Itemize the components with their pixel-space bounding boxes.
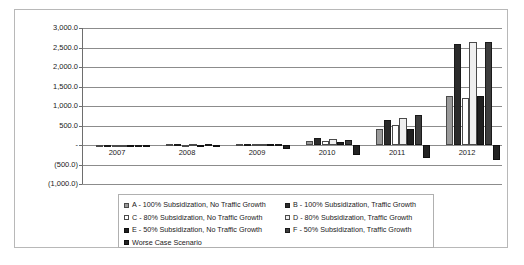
legend-label: C - 80% Subsidization, No Traffic Growth bbox=[132, 214, 263, 221]
gridline bbox=[82, 67, 502, 68]
bar-d-2007 bbox=[119, 145, 126, 147]
bar-g-2012 bbox=[493, 145, 500, 160]
bar-a-2010 bbox=[306, 141, 313, 145]
bar-e-2009 bbox=[267, 144, 274, 146]
gridline bbox=[82, 126, 502, 127]
bar-e-2011 bbox=[407, 129, 414, 145]
bar-d-2008 bbox=[189, 144, 196, 146]
bar-c-2012 bbox=[462, 98, 469, 145]
bar-b-2009 bbox=[244, 144, 251, 146]
bar-g-2009 bbox=[283, 145, 290, 149]
gridline bbox=[82, 28, 502, 29]
bar-f-2009 bbox=[275, 144, 282, 146]
gridline bbox=[82, 184, 502, 185]
legend-swatch-icon bbox=[285, 228, 290, 233]
bar-a-2012 bbox=[446, 96, 453, 145]
bar-g-2010 bbox=[353, 145, 360, 155]
bar-a-2008 bbox=[166, 144, 173, 146]
legend-swatch-icon bbox=[124, 203, 129, 208]
legend-swatch-icon bbox=[124, 228, 129, 233]
bar-f-2012 bbox=[485, 42, 492, 145]
chart-frame: 3,000.02,500.02,000.01,500.01,000.0500.0… bbox=[14, 9, 508, 248]
gridline bbox=[82, 165, 502, 166]
bar-e-2007 bbox=[127, 145, 134, 147]
bar-b-2011 bbox=[384, 120, 391, 145]
bar-f-2011 bbox=[415, 115, 422, 145]
legend-label: F - 50% Subsidization, Traffic Growth bbox=[293, 226, 412, 233]
legend-item-a[interactable]: A - 100% Subsidization, No Traffic Growt… bbox=[124, 199, 285, 211]
y-axis-line bbox=[82, 28, 83, 184]
x-tick-label-2007: 2007 bbox=[97, 149, 137, 157]
legend-swatch-icon bbox=[124, 240, 129, 245]
legend-item-d[interactable]: D - 80% Subsidization, Traffic Growth bbox=[285, 212, 412, 224]
legend-item-f[interactable]: F - 50% Subsidization, Traffic Growth bbox=[285, 224, 412, 236]
y-tick-label: - bbox=[76, 141, 79, 149]
bar-f-2007 bbox=[135, 145, 142, 147]
gridline bbox=[82, 106, 502, 107]
legend-row: E - 50% Subsidization, No Traffic Growth… bbox=[124, 224, 430, 236]
bar-c-2008 bbox=[182, 145, 189, 147]
bar-d-2009 bbox=[259, 144, 266, 146]
bar-g-2008 bbox=[213, 145, 220, 147]
bar-f-2010 bbox=[345, 140, 352, 145]
bar-d-2011 bbox=[399, 118, 406, 145]
legend-row: C - 80% Subsidization, No Traffic Growth… bbox=[124, 212, 430, 224]
y-tick-label: 1,000.0 bbox=[53, 102, 78, 110]
y-tick-label: (500.0) bbox=[54, 161, 78, 169]
y-tick-label: 500.0 bbox=[59, 122, 78, 130]
legend-label: D - 80% Subsidization, Traffic Growth bbox=[293, 214, 412, 221]
bar-b-2012 bbox=[454, 44, 461, 145]
gridline bbox=[82, 48, 502, 49]
y-axis-labels: 3,000.02,500.02,000.01,500.01,000.0500.0… bbox=[29, 28, 78, 184]
legend-label: E - 50% Subsidization, No Traffic Growth bbox=[132, 226, 262, 233]
bar-e-2010 bbox=[337, 142, 344, 145]
bar-a-2009 bbox=[236, 144, 243, 146]
y-tick-label: (1,000.0) bbox=[48, 180, 78, 188]
x-tick-label-2010: 2010 bbox=[307, 149, 347, 157]
legend-swatch-icon bbox=[285, 203, 290, 208]
legend-label: Worse Case Scenario bbox=[132, 239, 202, 246]
legend-item-c[interactable]: C - 80% Subsidization, No Traffic Growth bbox=[124, 212, 285, 224]
x-tick-label-2011: 2011 bbox=[377, 149, 417, 157]
legend-item-g[interactable]: Worse Case Scenario bbox=[124, 237, 285, 249]
bar-f-2008 bbox=[205, 144, 212, 146]
legend-row: Worse Case Scenario bbox=[124, 237, 430, 249]
legend-item-e[interactable]: E - 50% Subsidization, No Traffic Growth bbox=[124, 224, 285, 236]
chart-legend: A - 100% Subsidization, No Traffic Growt… bbox=[118, 194, 434, 248]
bar-a-2011 bbox=[376, 129, 383, 145]
bar-b-2010 bbox=[314, 138, 321, 145]
y-tick-label: 2,000.0 bbox=[53, 63, 78, 71]
bar-d-2012 bbox=[469, 42, 476, 145]
bar-g-2007 bbox=[143, 145, 150, 147]
y-tick-label: 3,000.0 bbox=[53, 24, 78, 32]
x-tick-label-2008: 2008 bbox=[167, 149, 207, 157]
legend-swatch-icon bbox=[124, 215, 129, 220]
bar-c-2011 bbox=[392, 125, 399, 145]
legend-label: B - 100% Subsidization, Traffic Growth bbox=[293, 201, 416, 208]
bar-d-2010 bbox=[329, 139, 336, 145]
plot-area bbox=[82, 28, 502, 184]
legend-label: A - 100% Subsidization, No Traffic Growt… bbox=[132, 201, 266, 208]
bar-c-2007 bbox=[112, 145, 119, 147]
x-tick-label-2012: 2012 bbox=[447, 149, 487, 157]
bar-c-2010 bbox=[322, 141, 329, 145]
legend-item-b[interactable]: B - 100% Subsidization, Traffic Growth bbox=[285, 199, 416, 211]
legend-swatch-icon bbox=[285, 215, 290, 220]
bar-e-2008 bbox=[197, 145, 204, 147]
bar-a-2007 bbox=[96, 145, 103, 147]
legend-row: A - 100% Subsidization, No Traffic Growt… bbox=[124, 199, 430, 211]
bar-g-2011 bbox=[423, 145, 430, 158]
gridline bbox=[82, 87, 502, 88]
bar-c-2009 bbox=[252, 144, 259, 146]
gridlines bbox=[82, 28, 502, 184]
x-tick-label-2009: 2009 bbox=[237, 149, 277, 157]
bar-e-2012 bbox=[477, 96, 484, 145]
bar-b-2008 bbox=[174, 144, 181, 146]
y-tick-mark bbox=[79, 184, 82, 185]
bar-b-2007 bbox=[104, 145, 111, 147]
y-tick-label: 1,500.0 bbox=[53, 83, 78, 91]
y-tick-label: 2,500.0 bbox=[53, 44, 78, 52]
